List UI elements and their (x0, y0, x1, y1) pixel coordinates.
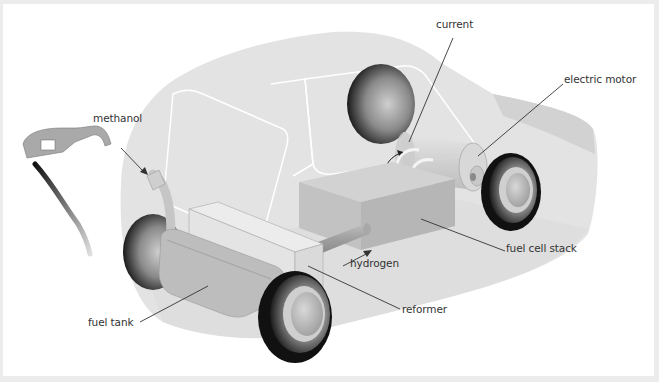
label-reformer: reformer (402, 303, 447, 315)
diagram-canvas: current electric motor methanol fuel cel… (3, 4, 654, 376)
front-near-wheel (258, 271, 332, 363)
label-current: current (436, 18, 473, 30)
nozzle-trigger-slot (41, 140, 55, 150)
label-hydrogen: hydrogen (350, 257, 399, 269)
label-methanol: methanol (93, 112, 142, 124)
label-electric-motor: electric motor (564, 73, 636, 85)
fuel-nozzle (23, 126, 111, 254)
rear-near-wheel (481, 153, 541, 231)
label-fuel-tank: fuel tank (88, 316, 133, 328)
rear-far-wheel (347, 64, 415, 144)
fuel-hose (35, 164, 90, 254)
label-fuel-cell-stack: fuel cell stack (506, 242, 577, 254)
